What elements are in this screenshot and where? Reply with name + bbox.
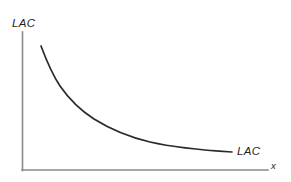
lac-curve-figure: LAC LAC x xyxy=(0,0,291,182)
x-axis-label: x xyxy=(271,160,276,171)
curve-label: LAC xyxy=(237,145,261,157)
lac-curve-path xyxy=(41,46,232,152)
y-axis-label: LAC xyxy=(12,17,36,29)
